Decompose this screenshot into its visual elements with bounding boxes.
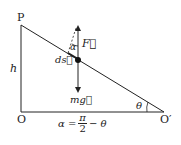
label-ds: ds⃗ bbox=[55, 55, 73, 65]
alpha-formula: α = π 2 − θ bbox=[58, 113, 106, 134]
label-mg: mg⃗ bbox=[70, 95, 92, 105]
label-O-prime: O′ bbox=[160, 114, 172, 125]
label-F: F⃗ bbox=[82, 38, 96, 49]
label-alpha: α bbox=[70, 43, 76, 52]
formula-fraction: π 2 bbox=[78, 113, 87, 134]
point-mass bbox=[75, 57, 81, 63]
label-P: P bbox=[17, 12, 24, 23]
formula-denominator: 2 bbox=[79, 124, 85, 134]
formula-lhs: α = bbox=[58, 118, 76, 129]
label-h: h bbox=[10, 63, 17, 74]
label-theta: θ bbox=[136, 101, 142, 111]
label-O: O bbox=[17, 114, 26, 125]
formula-rhs: − θ bbox=[89, 118, 107, 129]
theta-arc bbox=[147, 102, 148, 112]
